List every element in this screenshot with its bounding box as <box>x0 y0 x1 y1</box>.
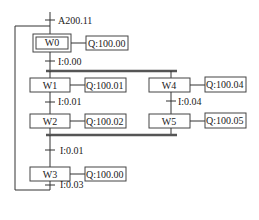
svg-text:W4: W4 <box>162 80 176 91</box>
svg-text:W2: W2 <box>43 116 57 127</box>
svg-text:W5: W5 <box>162 116 176 127</box>
transition-t0-label: I:0.00 <box>58 56 82 67</box>
action-w0-label: Q:100.00 <box>88 38 126 49</box>
svg-text:Q:100.04: Q:100.04 <box>206 79 244 90</box>
transition-t4-label: I:0.04 <box>178 96 202 107</box>
svg-text:Q:100.05: Q:100.05 <box>206 115 244 126</box>
sfc-diagram: A200.11 W0 Q:100.00 I:0.00 W1 Q:100.01 W… <box>0 0 259 220</box>
svg-text:Q:100.00: Q:100.00 <box>86 169 124 180</box>
step-w0-label: W0 <box>45 37 59 48</box>
svg-text:W3: W3 <box>43 169 57 180</box>
transition-initial-label: A200.11 <box>58 15 92 26</box>
transition-t1-label: I:0.01 <box>58 96 82 107</box>
svg-text:Q:100.01: Q:100.01 <box>86 80 124 91</box>
transition-t2-label: I:0.01 <box>60 145 84 156</box>
svg-text:Q:100.02: Q:100.02 <box>86 116 124 127</box>
transition-t3-label: I:0.03 <box>60 179 84 190</box>
svg-text:W1: W1 <box>43 80 57 91</box>
